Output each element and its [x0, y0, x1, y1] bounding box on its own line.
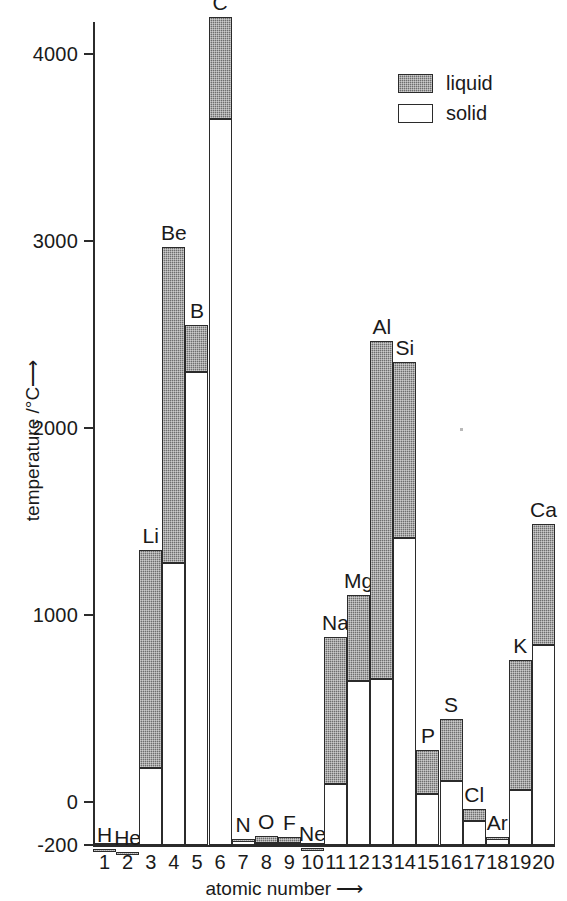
- x-tick-label-9: 9: [276, 851, 302, 874]
- bar-solid-segment-na: [324, 784, 347, 845]
- y-axis-title-text: temperature /°C: [22, 387, 43, 521]
- bar-liquid-segment-si: [393, 362, 416, 539]
- bar-solid-segment-b: [185, 372, 208, 845]
- bar-label-ca: Ca: [513, 498, 567, 522]
- x-tick-label-13: 13: [369, 851, 395, 874]
- bar-liquid-segment-p: [416, 750, 439, 794]
- x-tick-label-6: 6: [207, 851, 233, 874]
- x-tick-label-5: 5: [184, 851, 210, 874]
- temperature-vs-atomic-number-chart: -20001000200030004000 temperature /°C⟶ H…: [0, 0, 567, 901]
- bar-o: [255, 0, 278, 845]
- bar-ca: [532, 0, 555, 845]
- bar-c: [209, 0, 232, 845]
- chart-legend: liquid solid: [398, 72, 493, 132]
- legend-label-liquid: liquid: [446, 72, 493, 95]
- bar-solid-segment-p: [416, 794, 439, 845]
- bar-liquid-segment-ca: [532, 524, 555, 645]
- bar-solid-segment-si: [393, 538, 416, 845]
- bar-mg: [347, 0, 370, 845]
- y-tick-label--200: -200: [0, 834, 78, 857]
- x-tick-label-18: 18: [484, 851, 510, 874]
- x-axis-title: atomic number ⟶: [0, 877, 567, 900]
- bar-liquid-segment-k: [509, 660, 532, 790]
- bar-liquid-segment-be: [162, 247, 185, 563]
- x-tick-label-19: 19: [507, 851, 533, 874]
- bar-be: [162, 0, 185, 845]
- y-tick-label-3000: 3000: [0, 230, 78, 253]
- bar-liquid-segment-c: [209, 17, 232, 119]
- bar-solid-segment-c: [209, 119, 232, 845]
- bar-liquid-segment-mg: [347, 595, 370, 681]
- bar-liquid-segment-b: [185, 325, 208, 372]
- legend-swatch-liquid-icon: [398, 74, 433, 93]
- y-axis-title: temperature /°C⟶: [21, 292, 44, 592]
- bar-solid-segment-mg: [347, 681, 370, 845]
- x-tick-label-15: 15: [415, 851, 441, 874]
- bar-liquid-segment-ar: [486, 837, 509, 840]
- bar-he: [116, 0, 139, 845]
- x-tick-label-7: 7: [230, 851, 256, 874]
- x-tick-label-1: 1: [92, 851, 118, 874]
- bar-solid-segment-n: [232, 841, 255, 845]
- bar-liquid-segment-s: [440, 719, 463, 781]
- legend-item-liquid: liquid: [398, 72, 493, 95]
- bar-h: [93, 0, 116, 845]
- bar-f: [278, 0, 301, 845]
- bar-n: [232, 0, 255, 845]
- x-axis-title-text: atomic number: [206, 878, 332, 899]
- x-tick-label-14: 14: [392, 851, 418, 874]
- bar-na: [324, 0, 347, 845]
- bar-b: [185, 0, 208, 845]
- x-tick-label-16: 16: [438, 851, 464, 874]
- x-tick-label-3: 3: [138, 851, 164, 874]
- x-tick-label-11: 11: [323, 851, 349, 874]
- x-tick-label-12: 12: [346, 851, 372, 874]
- x-tick-label-2: 2: [115, 851, 141, 874]
- bar-k: [509, 0, 532, 845]
- y-tick-label-4000: 4000: [0, 43, 78, 66]
- x-axis-arrow-icon: ⟶: [336, 877, 361, 900]
- bar-liquid-segment-al: [370, 341, 393, 679]
- y-tick-label-1000: 1000: [0, 604, 78, 627]
- bar-liquid-segment-li: [139, 550, 162, 768]
- bar-solid-segment-li: [139, 768, 162, 845]
- bar-li: [139, 0, 162, 845]
- bar-al: [370, 0, 393, 845]
- x-tick-label-4: 4: [161, 851, 187, 874]
- bar-solid-segment-be: [162, 563, 185, 845]
- bar-liquid-segment-na: [324, 637, 347, 784]
- legend-item-solid: solid: [398, 102, 493, 125]
- legend-swatch-solid-icon: [398, 104, 433, 123]
- bar-solid-segment-ca: [532, 645, 555, 845]
- legend-label-solid: solid: [446, 102, 487, 125]
- page-speck: [460, 428, 463, 431]
- y-tick-label-0: 0: [0, 791, 78, 814]
- bar-liquid-segment-n: [232, 839, 255, 842]
- x-tick-label-10: 10: [299, 851, 325, 874]
- bar-ne: [301, 0, 324, 845]
- x-tick-label-20: 20: [530, 851, 556, 874]
- y-axis-arrow-icon: ⟶: [21, 362, 44, 387]
- bar-solid-segment-o: [255, 843, 278, 845]
- x-tick-label-17: 17: [461, 851, 487, 874]
- bar-liquid-segment-o: [255, 836, 278, 843]
- bar-solid-segment-al: [370, 679, 393, 845]
- bar-solid-segment-k: [509, 790, 532, 845]
- x-tick-label-8: 8: [253, 851, 279, 874]
